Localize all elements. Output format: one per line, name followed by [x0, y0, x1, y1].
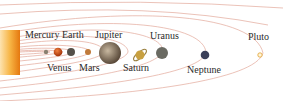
sun	[0, 30, 20, 75]
solar-system-diagram: Mercury Earth Jupiter Uranus Pluto Venus…	[0, 0, 283, 101]
planet-jupiter	[99, 42, 121, 64]
label-neptune: Neptune	[187, 65, 221, 75]
planet-mars	[85, 49, 91, 55]
planet-uranus	[156, 47, 168, 59]
label-venus: Venus	[47, 63, 71, 73]
label-uranus: Uranus	[150, 31, 179, 41]
planet-saturn	[132, 48, 148, 63]
orbit-line	[0, 10, 268, 25]
label-pluto: Pluto	[248, 32, 269, 42]
label-mars: Mars	[79, 63, 100, 73]
planet-venus	[54, 48, 63, 57]
label-saturn: Saturn	[123, 63, 149, 73]
label-mercury: Mercury	[25, 30, 59, 40]
diagram-canvas	[0, 0, 283, 101]
label-earth: Earth	[62, 30, 84, 40]
orbit-line	[0, 2, 283, 8]
planet-mercury	[44, 50, 48, 54]
planet-earth	[67, 48, 75, 56]
planet-pluto	[258, 53, 262, 57]
label-jupiter: Jupiter	[95, 30, 122, 40]
planet-neptune	[201, 51, 210, 60]
